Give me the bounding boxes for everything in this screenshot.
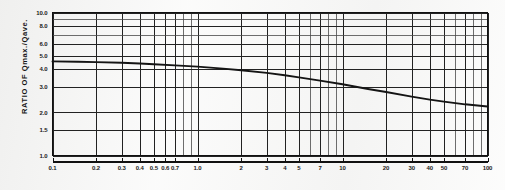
data-series-line [53,61,488,106]
plot-frame [53,13,488,156]
y-minor-gridlines [53,14,488,157]
chart-figure: RATIO OF Qmax./Qave. 1.01.52.03.04.05.06… [0,0,505,190]
data-series-group [53,61,488,106]
plot-border [53,13,488,156]
x-axis-tick-marks [53,158,489,162]
plot-canvas [0,0,505,190]
x-minor-gridlines [54,13,489,156]
